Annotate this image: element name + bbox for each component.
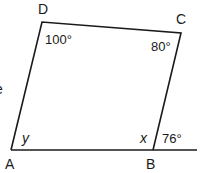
angle-a-variable-y: y <box>22 131 29 145</box>
vertex-label-b: B <box>146 157 155 171</box>
angle-d-label: 100° <box>45 33 72 46</box>
vertex-label-c: C <box>176 12 186 26</box>
angle-b-variable-x: x <box>140 131 147 145</box>
geometry-diagram: D C A B 100° 80° y x 76° e <box>0 0 205 173</box>
vertex-label-d: D <box>38 2 48 16</box>
angle-b-exterior-label: 76° <box>162 132 182 145</box>
cut-off-text-fragment: e <box>0 82 3 96</box>
quadrilateral-figure <box>0 0 205 173</box>
vertex-label-a: A <box>5 157 14 171</box>
angle-c-label: 80° <box>151 40 171 53</box>
